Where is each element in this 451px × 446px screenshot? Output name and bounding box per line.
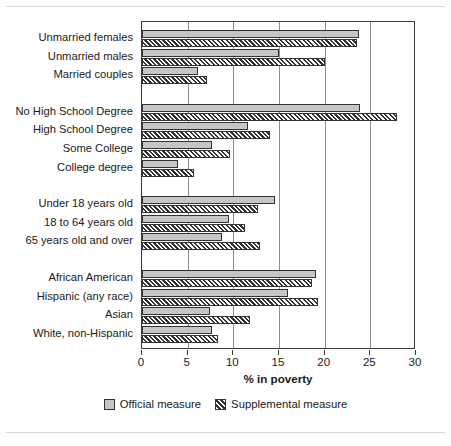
legend-swatch-supplemental-icon <box>215 399 226 410</box>
bar-supplemental <box>142 113 397 121</box>
bar-official <box>142 196 275 204</box>
category-label: Unmarried females <box>38 31 133 43</box>
bar-supplemental <box>142 169 194 177</box>
category-label: Married couples <box>53 68 133 80</box>
bar-supplemental <box>142 279 312 287</box>
x-axis-title: % in poverty <box>141 372 415 385</box>
bar-official <box>142 141 212 149</box>
bar-official <box>142 49 279 57</box>
bar-official <box>142 307 210 315</box>
bar-supplemental <box>142 205 258 213</box>
x-tick-5 <box>187 350 188 355</box>
x-tick-30 <box>415 350 416 355</box>
legend-label-supplemental: Supplemental measure <box>231 398 347 410</box>
category-label: High School Degree <box>33 123 133 135</box>
bar-supplemental <box>142 150 230 158</box>
bar-supplemental <box>142 131 270 139</box>
gridline-20 <box>325 22 326 348</box>
top-rule <box>6 6 445 7</box>
x-tick-20 <box>324 350 325 355</box>
bar-official <box>142 326 212 334</box>
legend-label-official: Official measure <box>120 398 201 410</box>
category-label: Unmarried males <box>48 50 133 62</box>
category-label: Hispanic (any race) <box>37 290 133 302</box>
category-label: Some College <box>63 142 133 154</box>
category-label: 65 years old and over <box>25 234 133 246</box>
x-tick-label: 10 <box>226 356 239 368</box>
gridline-25 <box>370 22 371 348</box>
x-tick-10 <box>232 350 233 355</box>
category-label: African American <box>48 271 133 283</box>
legend-swatch-official-icon <box>104 399 115 410</box>
bar-supplemental <box>142 224 245 232</box>
bar-official <box>142 215 229 223</box>
category-label: College degree <box>57 161 133 173</box>
category-label: Asian <box>105 308 133 320</box>
bar-supplemental <box>142 335 218 343</box>
bar-supplemental <box>142 58 325 66</box>
category-label: No High School Degree <box>15 105 133 117</box>
bar-official <box>142 122 248 130</box>
x-tick-label: 15 <box>272 356 285 368</box>
bar-official <box>142 104 360 112</box>
category-label: Under 18 years old <box>38 197 133 209</box>
plot-area <box>141 21 415 349</box>
x-tick-0 <box>141 350 142 355</box>
bar-official <box>142 270 316 278</box>
x-tick-25 <box>369 350 370 355</box>
bar-supplemental <box>142 39 357 47</box>
x-tick-label: 25 <box>363 356 376 368</box>
x-tick-label: 0 <box>138 356 144 368</box>
x-tick-label: 20 <box>317 356 330 368</box>
x-tick-15 <box>278 350 279 355</box>
bar-supplemental <box>142 298 318 306</box>
bar-official <box>142 289 288 297</box>
legend-item-official: Official measure <box>104 398 201 410</box>
bar-official <box>142 67 198 75</box>
bar-supplemental <box>142 76 207 84</box>
category-label: 18 to 64 years old <box>44 216 133 228</box>
bar-official <box>142 160 178 168</box>
bar-supplemental <box>142 242 260 250</box>
bar-supplemental <box>142 316 250 324</box>
category-label: White, non-Hispanic <box>33 327 133 339</box>
bar-official <box>142 30 359 38</box>
legend-item-supplemental: Supplemental measure <box>215 398 347 410</box>
x-tick-label: 30 <box>409 356 422 368</box>
chart-legend: Official measure Supplemental measure <box>0 398 451 410</box>
poverty-bar-chart-figure: Unmarried femalesUnmarried malesMarried … <box>0 0 451 446</box>
bottom-rule <box>6 432 445 433</box>
x-tick-label: 5 <box>183 356 189 368</box>
category-axis-labels: Unmarried femalesUnmarried malesMarried … <box>0 21 137 349</box>
bar-official <box>142 233 222 241</box>
